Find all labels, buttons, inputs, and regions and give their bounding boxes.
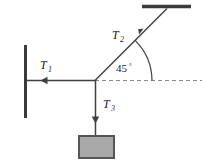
t3-label: T [103,97,111,111]
angle-degree-symbol: ° [129,62,132,70]
angle-label: 45 [116,62,128,74]
diagram-canvas: T 1 T 2 T 3 45 ° [0,0,202,161]
free-body-diagram: T 1 T 2 T 3 45 ° [0,0,202,161]
hanging-block [79,136,114,158]
t1-label-subscript: 1 [48,65,52,74]
t2-label: T [112,28,120,42]
t1-label: T [40,58,48,72]
t3-label-subscript: 3 [110,104,115,113]
t3-arrowhead [92,117,99,124]
angle-arc [135,41,152,81]
t2-label-subscript: 2 [120,35,124,44]
t1-arrowhead [41,77,48,84]
